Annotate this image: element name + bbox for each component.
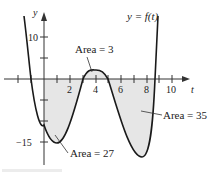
annotation-area-35: Area = 35 — [163, 109, 208, 121]
function-label: y = f(t) — [126, 10, 159, 23]
caption-remnant — [2, 169, 62, 172]
x-axis-label: t — [191, 84, 194, 95]
annotation-area-3: Area = 3 — [75, 43, 114, 55]
annotation-area-27: Area = 27 — [70, 147, 115, 159]
shaded-region-area-27 — [44, 79, 83, 143]
x-tick-label-8: 8 — [144, 84, 149, 95]
y-axis-label: y — [32, 7, 38, 18]
x-tick-label-4: 4 — [93, 84, 98, 95]
x-axis-arrow-icon — [182, 76, 190, 82]
y-tick-label-neg15: −15 — [16, 137, 32, 148]
x-tick-label-10: 10 — [166, 84, 176, 95]
chart-canvas: 2 4 6 8 10 t 10 −15 y y = f(t) Area = 3 … — [0, 0, 209, 174]
y-axis-arrow-icon — [41, 12, 47, 21]
x-tick-label-6: 6 — [118, 84, 123, 95]
x-tick-label-2: 2 — [67, 84, 72, 95]
y-tick-label-10: 10 — [28, 32, 38, 43]
